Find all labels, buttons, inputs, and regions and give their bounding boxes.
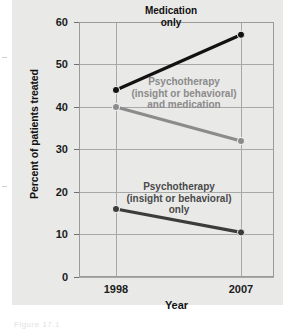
series-label-psych-med-line3: and medication [122,99,246,111]
page-edge-tick-top [2,57,7,58]
figure-caption-remnant: Figure 17.1 [14,320,60,329]
data-point-marker [112,86,119,93]
series-label-medication-only-line2: only [128,17,214,29]
data-point-marker [237,137,244,144]
data-point-marker [112,103,119,110]
series-label-psych-only-line2: (insight or behavioral) [116,193,242,205]
data-point-marker [237,229,244,236]
figure-panel: 60 50 40 30 20 10 0 1998 2007 Percent of… [12,0,283,305]
series-label-psychotherapy-only: Psychotherapy (insight or behavioral) on… [116,181,242,216]
series-label-psych-only-line3: only [116,204,242,216]
series-line [116,107,241,141]
series-label-medication-only-line1: Medication [128,5,214,17]
series-label-psych-only-line1: Psychotherapy [116,181,242,193]
data-point-marker [237,31,244,38]
series-label-medication-only: Medication only [128,5,214,28]
series-label-psych-med-line2: (insight or behavioral) [122,88,246,100]
series-label-psychotherapy-and-medication: Psychotherapy (insight or behavioral) an… [122,76,246,111]
page-edge-tick-bottom [2,186,7,187]
series-layer [12,0,283,305]
series-label-psych-med-line1: Psychotherapy [122,76,246,88]
